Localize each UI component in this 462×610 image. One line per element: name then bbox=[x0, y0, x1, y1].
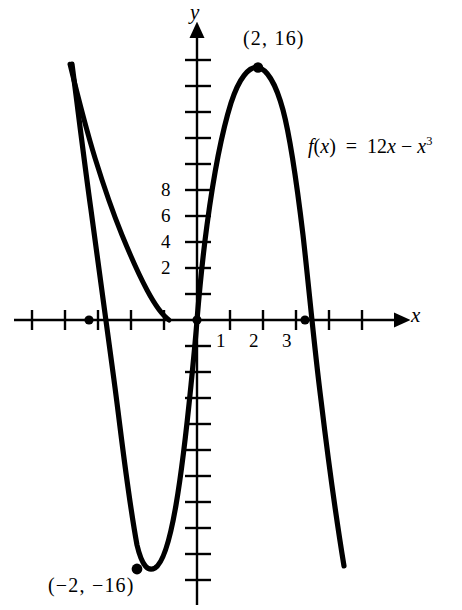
y-tick-label-2: 2 bbox=[161, 258, 171, 277]
y-tick-label-4: 4 bbox=[161, 232, 171, 251]
function-equation-label: f(x) = 12x − x3 bbox=[308, 136, 432, 156]
y-tick-label-8: 8 bbox=[161, 180, 171, 199]
curve-left-upper-branch bbox=[70, 64, 169, 320]
y-axis-label: y bbox=[190, 2, 199, 23]
x-intercept-left-point bbox=[84, 315, 93, 324]
x-axis-label: x bbox=[411, 305, 420, 326]
x-tick-label-1: 1 bbox=[216, 331, 226, 350]
function-argument: x bbox=[320, 135, 329, 157]
function-minus-sign: − bbox=[401, 135, 412, 157]
local-maximum-label: (2, 16) bbox=[243, 28, 305, 48]
x-intercept-right-point bbox=[300, 315, 309, 324]
plot-area bbox=[0, 0, 462, 610]
local-minimum-point bbox=[132, 564, 143, 575]
y-tick-label-6: 6 bbox=[161, 206, 171, 225]
local-minimum-label: (−2, −16) bbox=[48, 575, 135, 595]
function-linear-variable: x bbox=[387, 135, 396, 157]
function-cubic-variable: x bbox=[417, 135, 426, 157]
function-paren-close: ) bbox=[329, 135, 336, 157]
x-tick-label-2: 2 bbox=[249, 331, 259, 350]
function-coefficient: 12 bbox=[367, 135, 387, 157]
function-exponent: 3 bbox=[426, 134, 432, 148]
local-maximum-point bbox=[253, 62, 263, 72]
function-equals-sign: = bbox=[346, 135, 357, 157]
x-tick-label-3: 3 bbox=[282, 331, 292, 350]
origin-point bbox=[192, 315, 201, 324]
cubic-function-figure: y x 8 6 4 2 1 2 3 (2, 16) (−2, −16) f(x)… bbox=[0, 0, 462, 610]
